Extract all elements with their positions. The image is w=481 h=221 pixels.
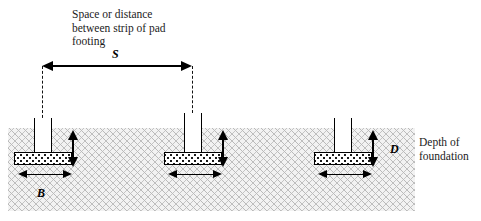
- footing-pad-left: [14, 152, 72, 165]
- width-arrow-right-middle-icon: [213, 170, 222, 178]
- column-left-wall-left: [34, 118, 35, 155]
- width-arrow-right-right-icon: [363, 170, 372, 178]
- spacing-arrow-right-icon: [181, 61, 192, 71]
- depth-note-text: Depth of foundation: [419, 136, 481, 163]
- footing-pad-right: [314, 152, 372, 165]
- foundation-footing-diagram: Space or distance between strip of pad f…: [0, 0, 481, 221]
- spacing-note-text: Space or distance between strip of pad f…: [72, 8, 212, 49]
- column-middle-wall-right: [201, 113, 202, 155]
- column-middle-fill: [184, 113, 201, 155]
- width-dimension-line-middle: [176, 174, 214, 176]
- column-left-wall-right: [51, 118, 52, 155]
- width-dimension-line-right: [326, 174, 364, 176]
- width-dimension-line-left: [26, 174, 64, 176]
- depth-arrow-down-left-icon: [68, 157, 78, 167]
- column-right-wall-right: [351, 118, 352, 155]
- depth-arrow-down-right-icon: [368, 157, 378, 167]
- width-arrow-right-left-icon: [63, 170, 72, 178]
- column-left-fill: [34, 118, 51, 155]
- column-right-wall-left: [334, 118, 335, 155]
- depth-arrow-down-middle-icon: [218, 157, 228, 167]
- spacing-dimension-line: [52, 65, 182, 67]
- symbol-b-width: B: [37, 186, 45, 201]
- column-middle-wall-left: [184, 113, 185, 155]
- symbol-s-spacing: S: [112, 47, 119, 62]
- footing-pad-middle: [164, 152, 222, 165]
- symbol-d-depth: D: [390, 142, 399, 157]
- column-right-fill: [334, 118, 351, 155]
